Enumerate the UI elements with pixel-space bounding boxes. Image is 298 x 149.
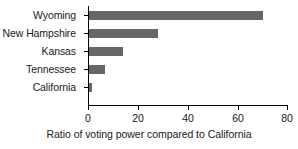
category-label-tennessee: Tennessee (0, 64, 76, 75)
y-axis-tick (84, 87, 88, 88)
x-axis-tick (88, 106, 89, 110)
y-axis-tick (84, 15, 88, 16)
x-tick-label-40: 40 (182, 113, 194, 124)
category-label-wyoming: Wyoming (0, 10, 76, 21)
x-tick-label-20: 20 (132, 113, 144, 124)
x-axis-tick (287, 106, 288, 110)
y-axis-tick (84, 51, 88, 52)
y-axis-tick (84, 69, 88, 70)
bar-tennessee (89, 65, 105, 74)
category-label-kansas: Kansas (0, 46, 76, 57)
x-axis-tick (238, 106, 239, 110)
x-axis-tick (138, 106, 139, 110)
category-label-california: California (0, 82, 76, 93)
bar-wyoming (89, 11, 263, 20)
x-axis-title: Ratio of voting power compared to Califo… (0, 128, 298, 140)
category-label-new-hampshire: New Hampshire (0, 28, 76, 39)
category-axis-labels: Wyoming New Hampshire Kansas Tennessee C… (0, 6, 78, 105)
x-tick-label-80: 80 (281, 113, 293, 124)
bar-chart: Wyoming New Hampshire Kansas Tennessee C… (0, 0, 298, 149)
x-tick-label-60: 60 (232, 113, 244, 124)
x-axis-tick (188, 106, 189, 110)
x-tick-label-0: 0 (85, 113, 91, 124)
bar-new-hampshire (89, 29, 158, 38)
plot-area: 0 20 40 60 80 (88, 6, 287, 105)
bar-california (89, 83, 92, 92)
y-axis-tick (84, 33, 88, 34)
bar-kansas (89, 47, 123, 56)
